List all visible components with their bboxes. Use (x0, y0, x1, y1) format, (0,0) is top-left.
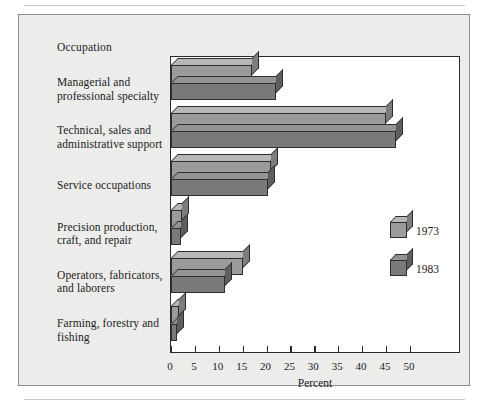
bars-container (171, 57, 459, 352)
bar-side-face (252, 51, 259, 75)
legend-label: 1973 (416, 225, 439, 237)
bar-1983-6 (171, 324, 177, 341)
legend-swatch-icon (390, 222, 407, 238)
legend-label: 1983 (416, 263, 439, 275)
x-tick (362, 346, 363, 352)
category-axis-title: Occupation (57, 41, 112, 53)
category-label: Service occupations (57, 179, 175, 193)
bar-top-face (171, 58, 259, 65)
bar-top-face (171, 154, 278, 161)
x-tick (410, 346, 411, 352)
x-tick (195, 346, 196, 352)
x-tick (314, 346, 315, 352)
x-tick (290, 346, 291, 352)
legend-swatch-icon (390, 260, 407, 276)
bottom-divider-rule (24, 399, 465, 400)
category-label-column: Managerial and professional specialtyTec… (57, 63, 169, 353)
bar-front-face (171, 179, 268, 196)
category-label: Precision production, craft, and repair (57, 221, 175, 248)
x-tick (386, 346, 387, 352)
swatch-front-face (390, 222, 407, 238)
category-label: Technical, sales and administrative supp… (57, 124, 175, 151)
bar-top-face (171, 76, 283, 83)
swatch-front-face (390, 260, 407, 276)
bar-front-face (171, 228, 181, 245)
bar-front-face (171, 83, 276, 100)
bar-top-face (171, 269, 232, 276)
bar-side-face (396, 117, 403, 141)
bar-group (171, 298, 459, 346)
x-tick-label: 50 (394, 360, 424, 372)
bar-side-face (276, 69, 283, 93)
bar-top-face (171, 251, 250, 258)
bar-1983-5 (171, 276, 225, 293)
x-tick (219, 346, 220, 352)
bar-top-face (171, 124, 403, 131)
bar-front-face (171, 131, 396, 148)
bar-front-face (171, 324, 177, 341)
bar-group (171, 105, 459, 153)
x-tick (171, 346, 172, 352)
x-axis-title: Percent (170, 377, 460, 389)
category-label: Farming, forestry and fishing (57, 317, 175, 344)
figure-root: Occupation Managerial and professional s… (0, 0, 489, 408)
bar-front-face (171, 276, 225, 293)
bar-1983-2 (171, 131, 396, 148)
bar-top-face (171, 106, 393, 113)
x-tick (243, 346, 244, 352)
bar-1983-3 (171, 179, 268, 196)
x-tick (267, 346, 268, 352)
bar-top-face (171, 172, 275, 179)
bar-group (171, 153, 459, 201)
x-tick (338, 346, 339, 352)
bar-group (171, 57, 459, 105)
category-label: Managerial and professional specialty (57, 76, 175, 103)
chart-panel: Occupation Managerial and professional s… (18, 14, 470, 386)
category-label: Operators, fabricators, and laborers (57, 269, 175, 296)
bar-1983-1 (171, 83, 276, 100)
plot-area (170, 56, 460, 353)
top-divider-rule (24, 5, 465, 6)
bar-1983-4 (171, 228, 181, 245)
